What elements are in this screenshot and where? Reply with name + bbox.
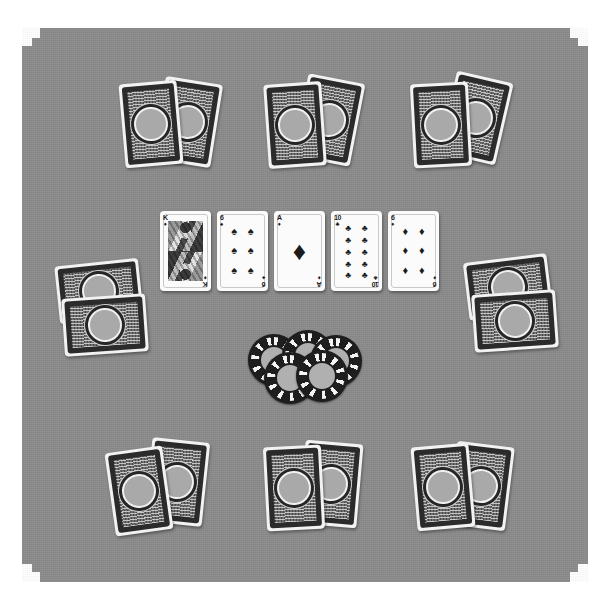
community-card[interactable]: 6 ♦ 6 ♦ ♦ ♦ ♦ ♦ ♦ ♦ [388, 211, 439, 291]
corner-pocket-dot-bottom-left [32, 564, 40, 572]
card-back-inner [64, 296, 145, 353]
card-suit-icon: ♦ [204, 275, 207, 281]
community-card[interactable]: A ♦ A ♦ ♦ [274, 211, 325, 291]
court-divider [168, 251, 203, 252]
card-suit-icon: ♦ [318, 275, 321, 281]
court-half-bottom [168, 251, 203, 281]
hole-card[interactable] [104, 445, 173, 536]
pip: ♣ [340, 234, 357, 246]
card-pips: ♦ [283, 222, 316, 280]
pip: ♣ [357, 222, 374, 234]
card-index-top-left: K ♦ [163, 214, 168, 227]
pip: ♠ [226, 261, 243, 280]
card-rank: A [317, 281, 322, 288]
card-rank: K [163, 214, 168, 221]
card-rank: 6 [433, 281, 436, 288]
card-suit-icon: ♦ [391, 221, 394, 227]
pip: ♣ [357, 271, 374, 280]
pip: ♣ [357, 247, 374, 259]
pip: ♦ [414, 241, 431, 260]
card-rank: K [203, 281, 208, 288]
card-pips: ♦ ♦ ♦ ♦ ♦ ♦ [397, 222, 430, 280]
card-back-inner [474, 292, 555, 349]
card-index-bottom-right: A ♦ [317, 275, 322, 288]
card-back-inner [413, 85, 469, 166]
court-card-artwork [168, 221, 203, 281]
hole-card[interactable] [263, 445, 325, 532]
card-rank: 10 [334, 214, 341, 221]
card-rank: 6 [391, 214, 394, 221]
pip: ♦ [283, 222, 316, 280]
pip: ♦ [397, 222, 414, 241]
card-index-bottom-right: K ♦ [203, 275, 208, 288]
poker-chip[interactable] [296, 350, 348, 402]
pot-chip-stack[interactable] [248, 330, 362, 402]
card-index-bottom-right: 6 ♠ [262, 275, 265, 288]
card-back-inner [122, 83, 181, 165]
pip: ♠ [243, 222, 260, 241]
community-board: K ♦ K ♦ 6 ♠ 6 ♠ [160, 211, 439, 291]
community-card[interactable]: 6 ♠ 6 ♠ ♠ ♠ ♠ ♠ ♠ ♠ [217, 211, 268, 291]
pip: ♦ [397, 241, 414, 260]
corner-pocket-dot-top-left [32, 38, 40, 46]
pip: ♣ [357, 234, 374, 246]
pip: ♦ [414, 222, 431, 241]
card-suit-icon: ♠ [262, 275, 265, 281]
pip: ♠ [226, 241, 243, 260]
corner-pocket-dot-top-right [570, 38, 578, 46]
hole-card[interactable] [118, 80, 183, 169]
card-suit-icon: ♦ [164, 221, 167, 227]
card-back-inner [108, 449, 170, 533]
card-index-top-left: 6 ♠ [220, 214, 223, 227]
card-suit-icon: ♠ [220, 221, 223, 227]
card-pips: ♠ ♠ ♠ ♠ ♠ ♠ [226, 222, 259, 280]
court-half-top [168, 221, 203, 251]
card-rank: 6 [220, 214, 223, 221]
community-card[interactable]: K ♦ K ♦ [160, 211, 211, 291]
poker-table-scene: K ♦ K ♦ 6 ♠ 6 ♠ [0, 0, 609, 609]
hole-card[interactable] [263, 81, 327, 169]
hole-card[interactable] [471, 289, 559, 353]
card-back-inner [266, 84, 323, 165]
pip: ♣ [340, 271, 357, 280]
hole-card[interactable] [61, 293, 149, 357]
pip: ♦ [397, 261, 414, 280]
pip: ♠ [243, 261, 260, 280]
community-card[interactable]: 10 ♣ 10 ♣ ♣ ♣ ♣ ♣ ♣ ♣ ♣ ♣ ♣ ♣ [331, 211, 382, 291]
corner-pocket-dot-bottom-right [570, 564, 578, 572]
card-index-bottom-right: 10 ♣ [372, 275, 379, 288]
card-back-inner [414, 446, 473, 528]
card-index-top-left: 6 ♦ [391, 214, 394, 227]
card-rank: A [277, 214, 282, 221]
card-back-inner [266, 448, 322, 529]
hole-card[interactable] [410, 443, 475, 532]
card-rank: 10 [372, 281, 379, 288]
card-suit-icon: ♣ [335, 221, 339, 227]
pip: ♣ [340, 222, 357, 234]
hole-card[interactable] [410, 82, 472, 169]
card-index-bottom-right: 6 ♦ [433, 275, 436, 288]
card-suit-icon: ♣ [374, 275, 378, 281]
pip: ♦ [414, 261, 431, 280]
card-index-top-left: A ♦ [277, 214, 282, 227]
card-pips: ♣ ♣ ♣ ♣ ♣ ♣ ♣ ♣ ♣ ♣ [340, 222, 373, 280]
pip: ♠ [226, 222, 243, 241]
pip: ♠ [243, 241, 260, 260]
card-rank: 6 [262, 281, 265, 288]
card-suit-icon: ♦ [433, 275, 436, 281]
pip: ♣ [340, 247, 357, 259]
card-suit-icon: ♦ [278, 221, 281, 227]
